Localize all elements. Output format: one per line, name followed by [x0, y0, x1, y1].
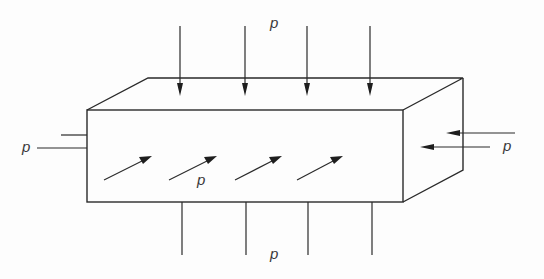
left-pressure-lines: [37, 135, 87, 148]
down-arrow-icon: [242, 26, 248, 96]
diagonal-arrow-icon: [104, 156, 152, 180]
label-top: p: [269, 14, 278, 31]
diagonal-arrow-icon: [169, 156, 217, 180]
top-pressure-arrows: [177, 26, 373, 96]
down-arrow-icon: [304, 26, 310, 96]
front-face: [87, 110, 403, 202]
block: [87, 78, 463, 202]
label-right: p: [502, 137, 511, 154]
down-arrow-icon: [177, 26, 183, 96]
left-arrow-icon: [420, 144, 490, 150]
label-left: p: [21, 138, 30, 155]
down-arrow-icon: [367, 26, 373, 96]
diagonal-arrow-icon: [297, 156, 343, 180]
diagonal-arrow-icon: [235, 156, 282, 180]
right-face: [403, 78, 463, 202]
label-front: p: [196, 171, 205, 188]
top-face: [87, 78, 463, 110]
label-bottom: p: [269, 245, 278, 262]
left-arrow-icon: [446, 130, 515, 136]
right-pressure-arrows: [420, 130, 515, 150]
front-pressure-arrows: [104, 156, 343, 180]
pressure-block-diagram: p p p p p: [0, 0, 544, 279]
